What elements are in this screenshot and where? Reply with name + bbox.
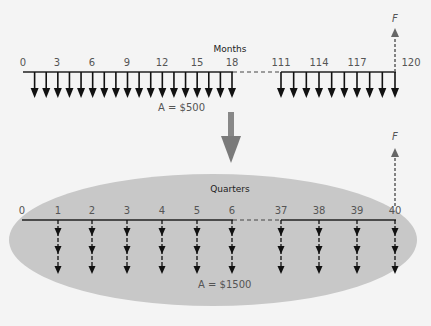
month-tick-label: 9 [124, 57, 130, 68]
monthly-timeline: 0369121518111114117120MonthsA = $500F [20, 13, 421, 113]
monthly-annuity-label: A = $500 [158, 102, 205, 113]
month-tick-label: 18 [226, 57, 239, 68]
quarter-tick-label: 1 [55, 205, 61, 216]
quarter-tick-label: 39 [351, 205, 364, 216]
month-tick-label: 15 [191, 57, 204, 68]
quarter-tick-label: 37 [275, 205, 288, 216]
quarterly-annuity-label: A = $1500 [198, 279, 251, 290]
month-tick-label: 117 [347, 57, 366, 68]
month-tick-label: 12 [156, 57, 169, 68]
month-tick-label: 111 [271, 57, 290, 68]
quarter-tick-label: 38 [313, 205, 326, 216]
quarter-tick-label: 4 [159, 205, 165, 216]
quarter-tick-label: 6 [229, 205, 235, 216]
quarter-tick-label: 2 [89, 205, 95, 216]
month-tick-label: 3 [54, 57, 60, 68]
transition-arrow [221, 112, 241, 163]
quarter-tick-label: 0 [19, 205, 25, 216]
future-value-label: F [392, 13, 398, 24]
months-title: Months [214, 44, 247, 54]
quarter-tick-label: 3 [124, 205, 130, 216]
quarters-title: Quarters [210, 184, 250, 194]
month-tick-label: 114 [309, 57, 328, 68]
quarter-tick-label: 5 [194, 205, 200, 216]
month-tick-label: 120 [401, 57, 420, 68]
quarter-tick-label: 40 [389, 205, 402, 216]
month-tick-label: 0 [20, 57, 26, 68]
month-tick-label: 6 [89, 57, 95, 68]
future-value-label: F [392, 131, 398, 142]
cash-flow-diagram: 0369121518111114117120MonthsA = $500F 01… [0, 0, 431, 326]
